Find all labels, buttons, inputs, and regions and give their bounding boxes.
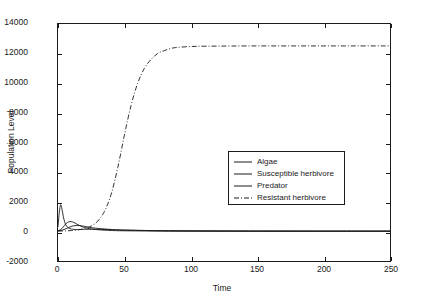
y-axis-label: Population Level [6,111,16,174]
ytick-label-14000: 14000 [4,18,28,27]
legend-item-predator: Predator [229,180,344,192]
xtick-mark [58,24,59,28]
xtick-label-250: 250 [384,265,398,274]
xtick-mark [192,257,193,261]
ytick-mark [58,233,62,234]
ytick-mark [386,144,390,145]
legend: Algae Susceptible herbivore Predator Res… [228,151,345,205]
xtick-label-150: 150 [250,265,264,274]
xtick-mark [58,257,59,261]
ytick-mark [386,84,390,85]
ytick-label-neg2000: -2000 [6,257,28,266]
ytick-mark [386,114,390,115]
ytick-mark [386,54,390,55]
figure: 14000 12000 10000 8000 6000 4000 2000 0 … [0,0,422,307]
x-axis-label: Time [213,283,232,293]
ytick-label-10000: 10000 [4,78,28,87]
ytick-mark [58,54,62,55]
xtick-label-0: 0 [55,265,60,274]
legend-item-resistant-herbivore: Resistant herbivore [229,192,344,204]
legend-label-predator: Predator [257,181,288,191]
xtick-label-50: 50 [119,265,128,274]
legend-item-algae: Algae [229,156,344,168]
xtick-label-200: 200 [317,265,331,274]
xtick-mark [391,24,392,28]
ytick-mark [386,233,390,234]
legend-label-susceptible-herbivore: Susceptible herbivore [257,169,334,179]
ytick-mark [58,173,62,174]
xtick-mark [125,257,126,261]
ytick-mark [58,144,62,145]
ytick-label-0: 0 [23,227,28,236]
xtick-mark [325,24,326,28]
legend-line-dashdot-icon [233,193,253,203]
legend-line-solid-icon [233,157,253,167]
series-line [58,205,390,231]
xtick-mark [325,257,326,261]
xtick-mark [192,24,193,28]
xtick-mark [258,257,259,261]
ytick-label-2000: 2000 [9,197,28,206]
plot-area [58,24,390,261]
ytick-label-12000: 12000 [4,48,28,57]
ytick-mark [58,203,62,204]
ytick-mark [386,173,390,174]
legend-line-solid-icon [233,169,253,179]
plot-frame [57,23,391,262]
ytick-mark [386,203,390,204]
xtick-mark [125,24,126,28]
ytick-mark [58,114,62,115]
legend-label-resistant-herbivore: Resistant herbivore [257,193,326,203]
xtick-label-100: 100 [184,265,198,274]
xtick-mark [258,24,259,28]
ytick-mark [58,84,62,85]
legend-label-algae: Algae [257,157,277,167]
legend-item-susceptible-herbivore: Susceptible herbivore [229,168,344,180]
legend-line-solid-icon [233,181,253,191]
xtick-mark [391,257,392,261]
series-curves [58,24,390,261]
